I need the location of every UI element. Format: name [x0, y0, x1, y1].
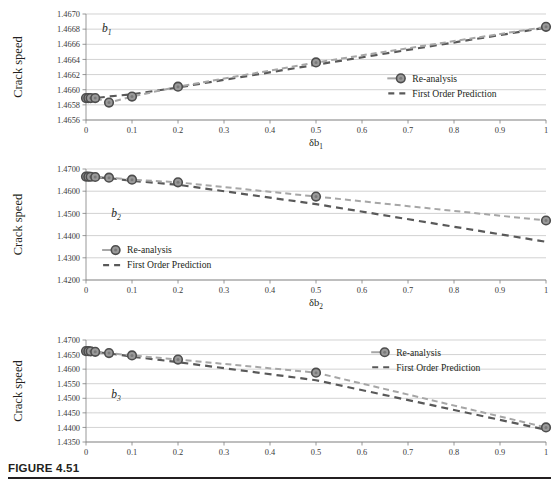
- y-tick-label: 1.4350: [57, 438, 80, 447]
- y-axis-title: Crack speed: [11, 193, 25, 255]
- x-tick-label: 0.5: [311, 448, 321, 457]
- x-tick-label: 0.7: [403, 286, 413, 295]
- x-tick-label: 0.6: [357, 448, 367, 457]
- chart-svg-b2: 1.42001.43001.44001.45001.46001.470000.1…: [0, 155, 559, 330]
- y-tick-labels: 1.43501.44001.44501.45001.45501.46001.46…: [57, 336, 80, 447]
- chart-panel-b3: 1.43501.44001.44501.45001.45501.46001.46…: [0, 330, 559, 460]
- x-tick-label: 0: [84, 286, 88, 295]
- x-axis-title: δb3: [309, 459, 323, 460]
- data-point-center: [545, 25, 548, 28]
- panel-annotation: b1: [102, 22, 112, 37]
- y-axis: [83, 14, 87, 120]
- chart-legend: Re-analysisFirst Order Prediction: [371, 347, 480, 373]
- legend-marker-center: [399, 77, 402, 80]
- figure-caption: FIGURE 4.51: [0, 462, 559, 479]
- y-tick-label: 1.4400: [57, 232, 80, 241]
- data-point-center: [177, 181, 180, 184]
- x-tick-label: 0.2: [173, 448, 183, 457]
- y-tick-label: 1.4700: [57, 165, 80, 174]
- data-point-center: [545, 219, 548, 222]
- chart-svg-b1: 1.46561.46581.46601.46621.46641.46661.46…: [0, 0, 559, 155]
- x-tick-label: 0.9: [495, 126, 505, 135]
- x-tick-label: 0.1: [127, 126, 137, 135]
- figure-caption-label: FIGURE 4.51: [0, 462, 559, 474]
- y-tick-label: 1.4664: [57, 56, 81, 65]
- x-tick-label: 0.4: [265, 286, 276, 295]
- y-tick-label: 1.4550: [57, 380, 80, 389]
- x-tick-label: 0.7: [403, 448, 413, 457]
- x-tick-label: 0.3: [219, 126, 229, 135]
- y-tick-label: 1.4500: [57, 210, 80, 219]
- data-point-center: [94, 97, 97, 100]
- panel-annotation: b3: [111, 388, 121, 403]
- x-axis: [86, 120, 546, 124]
- y-tick-label: 1.4666: [57, 40, 80, 49]
- y-tick-label: 1.4660: [57, 86, 80, 95]
- legend-label-re-analysis: Re-analysis: [412, 73, 457, 84]
- y-tick-label: 1.4200: [57, 276, 80, 285]
- data-point-center: [177, 85, 180, 88]
- data-point-center: [131, 95, 134, 98]
- y-tick-label: 1.4670: [57, 10, 80, 19]
- panel-annotation: b2: [111, 207, 121, 222]
- y-tick-labels: 1.46561.46581.46601.46621.46641.46661.46…: [57, 10, 81, 125]
- chart-legend: Re-analysisFirst Order Prediction: [102, 244, 211, 270]
- y-tick-label: 1.4500: [57, 394, 80, 403]
- x-tick-label: 0.5: [311, 126, 321, 135]
- chart-legend: Re-analysisFirst Order Prediction: [387, 73, 496, 99]
- x-tick-label: 0.5: [311, 286, 321, 295]
- x-tick-label: 0: [84, 448, 88, 457]
- y-tick-label: 1.4656: [57, 116, 80, 125]
- x-tick-label: 0.8: [449, 126, 459, 135]
- gridlines: [86, 340, 546, 442]
- y-tick-label: 1.4600: [57, 365, 80, 374]
- y-axis: [83, 169, 87, 280]
- legend-label-re-analysis: Re-analysis: [396, 347, 441, 358]
- legend-label-re-analysis: Re-analysis: [127, 244, 172, 255]
- data-point-center: [177, 358, 180, 361]
- x-tick-labels: 00.10.20.30.40.50.60.70.80.91: [84, 448, 548, 457]
- legend-label-first-order-prediction: First Order Prediction: [127, 259, 211, 270]
- y-axis-title: Crack speed: [11, 360, 25, 422]
- x-tick-label: 0.1: [127, 448, 137, 457]
- chart-svg-b3: 1.43501.44001.44501.45001.45501.46001.46…: [0, 330, 559, 460]
- data-point-center: [131, 354, 134, 357]
- x-tick-label: 0.6: [357, 126, 367, 135]
- caption-divider: [8, 477, 551, 479]
- x-tick-label: 0.8: [449, 286, 459, 295]
- data-point-center: [94, 175, 97, 178]
- data-point-center: [94, 350, 97, 353]
- x-axis: [86, 280, 546, 284]
- chart-panel-b1: 1.46561.46581.46601.46621.46641.46661.46…: [0, 0, 559, 155]
- x-tick-label: 0: [84, 126, 88, 135]
- x-tick-label: 0.9: [495, 448, 505, 457]
- data-point-center: [108, 352, 111, 355]
- data-point-center: [315, 195, 318, 198]
- svg-text:δb1: δb1: [309, 137, 323, 151]
- x-tick-label: 0.6: [357, 286, 367, 295]
- x-tick-label: 0.4: [265, 448, 276, 457]
- y-axis-title: Crack speed: [11, 36, 25, 98]
- data-point-center: [108, 176, 111, 179]
- y-tick-label: 1.4450: [57, 409, 80, 418]
- y-tick-labels: 1.42001.43001.44001.45001.46001.4700: [57, 165, 80, 285]
- x-tick-label: 0.3: [219, 448, 229, 457]
- x-tick-label: 0.1: [127, 286, 137, 295]
- x-tick-label: 0.8: [449, 448, 459, 457]
- x-tick-label: 1: [544, 286, 548, 295]
- legend-marker-center: [383, 351, 386, 354]
- x-tick-label: 0.2: [173, 286, 183, 295]
- svg-text:δb2: δb2: [309, 297, 323, 311]
- legend-marker-center: [114, 249, 117, 252]
- y-tick-label: 1.4400: [57, 424, 80, 433]
- y-tick-label: 1.4650: [57, 351, 80, 360]
- legend-label-first-order-prediction: First Order Prediction: [396, 362, 480, 373]
- legend-label-first-order-prediction: First Order Prediction: [412, 88, 496, 99]
- x-tick-label: 0.4: [265, 126, 276, 135]
- figure-4-51: 1.46561.46581.46601.46621.46641.46661.46…: [0, 0, 559, 504]
- x-tick-label: 0.2: [173, 126, 183, 135]
- series-first-order-prediction: [86, 177, 546, 242]
- x-tick-label: 0.7: [403, 126, 413, 135]
- y-tick-label: 1.4658: [57, 101, 80, 110]
- data-point-center: [545, 426, 548, 429]
